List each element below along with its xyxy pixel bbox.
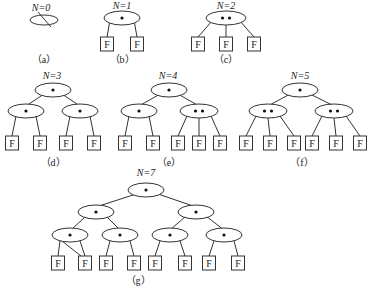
key-dot [228, 16, 231, 19]
panel-title: N=4 [158, 70, 177, 81]
key-dot [51, 88, 54, 91]
panel-title: N=1 [112, 0, 131, 11]
leaf-label: F [122, 138, 128, 149]
panel-caption: （d） [41, 157, 66, 168]
panel-e: N=4FFFFF（e） [119, 70, 227, 168]
key-dot [329, 109, 332, 112]
panel-title: N=2 [216, 0, 235, 11]
panel-d: N=3FFFF（d） [6, 70, 101, 168]
panel-caption: （e） [157, 157, 181, 168]
key-dot [221, 16, 224, 19]
tree-edge [178, 116, 187, 136]
panel-f: N=5FFFFFF（f） [240, 70, 367, 168]
tree-node [206, 11, 246, 25]
key-dot [68, 233, 71, 236]
tree-edge [130, 241, 134, 256]
tree-edge [12, 116, 16, 136]
leaf-label: F [206, 258, 212, 269]
tree-edge [58, 241, 60, 256]
tree-edge [240, 21, 254, 37]
tree-edge [80, 241, 85, 256]
leaf-label: F [235, 258, 241, 269]
key-dot [201, 109, 204, 112]
leaf-label: F [134, 39, 140, 50]
leaf-label: F [309, 138, 315, 149]
key-dot [144, 188, 147, 191]
tree-edge [234, 241, 238, 256]
tree-node [180, 104, 218, 118]
leaf-label: F [195, 39, 201, 50]
tree-edge [66, 116, 70, 136]
leaf-label: F [55, 258, 61, 269]
empty-node [30, 15, 58, 25]
panel-caption: （b） [110, 54, 135, 65]
panel-caption: （f） [290, 157, 313, 168]
key-dot [118, 233, 121, 236]
panel-caption: （a） [32, 54, 56, 65]
leaf-label: F [104, 39, 110, 50]
panel-caption: （g） [126, 275, 151, 286]
leaf-label: F [251, 39, 257, 50]
panel-c: N=2FFF（c） [192, 0, 261, 65]
key-dot [336, 109, 339, 112]
tree-edge [90, 116, 94, 136]
leaf-label: F [291, 138, 297, 149]
leaf-label: F [333, 138, 339, 149]
leaf-label: F [223, 39, 229, 50]
tree-edge [312, 116, 322, 136]
panel-a: N=0（a） [30, 2, 58, 65]
tree-diagram: N=0（a）N=1FF（b）N=2FFF（c）N=3FFFF（d）N=4FFFF… [0, 0, 372, 289]
key-dot [94, 210, 97, 213]
leaf-label: F [243, 138, 249, 149]
tree-edge [149, 116, 153, 136]
key-dot [167, 88, 170, 91]
key-dot [168, 233, 171, 236]
panel-g: N=7FFFFFFFF（g） [52, 167, 245, 286]
tree-edge [280, 116, 294, 136]
tree-node [315, 104, 353, 118]
leaf-label: F [131, 258, 137, 269]
panel-title: N=0 [31, 2, 50, 13]
leaf-label: F [150, 138, 156, 149]
key-dot [222, 233, 225, 236]
leaf-label: F [152, 258, 158, 269]
key-dot [120, 16, 123, 19]
leaf-label: F [217, 138, 223, 149]
tree-edge [106, 241, 110, 256]
key-dot [194, 210, 197, 213]
panel-title: N=3 [42, 70, 61, 81]
leaf-label: F [196, 138, 202, 149]
leaf-label: F [63, 138, 69, 149]
tree-edge [180, 241, 185, 256]
key-dot [24, 109, 27, 112]
tree-edge [62, 241, 81, 256]
key-dot [137, 109, 140, 112]
key-dot [263, 109, 266, 112]
tree-edge [125, 116, 129, 136]
tree-edge [211, 116, 220, 136]
leaf-label: F [9, 138, 15, 149]
tree-edge [155, 241, 160, 256]
tree-edge [209, 241, 214, 256]
tree-edge [198, 21, 212, 37]
leaf-label: F [175, 138, 181, 149]
key-dot [78, 109, 81, 112]
panel-b: N=1FF（b） [101, 0, 144, 65]
panel-title: N=7 [136, 167, 156, 178]
key-dot [270, 109, 273, 112]
tree-edge [246, 116, 256, 136]
tree-edge [268, 118, 270, 136]
tree-edge [346, 116, 360, 136]
leaf-label: F [357, 138, 363, 149]
panel-title: N=5 [290, 70, 309, 81]
leaf-label: F [103, 258, 109, 269]
leaf-label: F [37, 138, 43, 149]
panel-caption: （c） [214, 54, 238, 65]
tree-edge [36, 116, 40, 136]
tree-node [249, 104, 287, 118]
key-dot [298, 88, 301, 91]
leaf-label: F [91, 138, 97, 149]
leaf-label: F [82, 258, 88, 269]
key-dot [194, 109, 197, 112]
tree-edge [334, 118, 336, 136]
